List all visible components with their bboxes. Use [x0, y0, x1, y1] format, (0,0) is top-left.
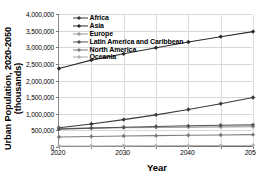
series-marker — [57, 135, 61, 139]
y-axis-tick-label: 4,000,000 — [0, 11, 54, 18]
series-marker — [251, 29, 255, 33]
legend-item-label: Oceania — [90, 53, 117, 61]
y-axis-tick-label: 3,000,000 — [0, 44, 54, 51]
series-marker — [154, 113, 158, 117]
x-axis-title: Year — [58, 162, 256, 173]
series-marker — [89, 126, 93, 130]
y-axis-tick-labels: 0500,0001,000,0001,500,0002,000,0002,500… — [0, 14, 56, 147]
y-axis-tick-label: 1,000,000 — [0, 110, 54, 117]
series-marker — [154, 133, 158, 137]
legend-marker-icon — [73, 30, 88, 38]
legend-marker-icon — [73, 38, 88, 46]
x-axis-tick-label: 2020 — [51, 149, 66, 156]
legend-item-asia[interactable]: Asia — [73, 22, 183, 30]
x-axis-tick-label: 2030 — [115, 149, 130, 156]
series-marker — [218, 34, 222, 38]
series-marker — [89, 122, 93, 126]
legend-item-north-america[interactable]: North America — [73, 46, 183, 54]
legend-item-label: Europe — [90, 30, 114, 38]
y-axis-tick-label: 1,500,000 — [0, 94, 54, 101]
series-marker — [218, 133, 222, 137]
urban-population-line-chart: Urban Population, 2020-2050 (thousands) … — [0, 0, 256, 177]
series-marker — [121, 125, 125, 129]
legend-item-latin-america-and-caribbean[interactable]: Latin America and Caribbean — [73, 38, 183, 46]
legend-marker-icon — [73, 53, 88, 61]
series-marker — [57, 66, 61, 70]
x-axis-tick-labels: 2020203020402050 — [58, 149, 252, 161]
series-north-america — [57, 132, 255, 139]
y-axis-tick-label: 2,500,000 — [0, 60, 54, 67]
series-marker — [121, 134, 125, 138]
y-axis-tick-label: 0 — [0, 144, 54, 151]
series-marker — [186, 107, 190, 111]
series-marker — [89, 134, 93, 138]
legend-marker-icon — [73, 22, 88, 30]
legend-item-label: Latin America and Caribbean — [90, 38, 184, 46]
legend-item-label: North America — [90, 46, 137, 54]
legend-item-oceania[interactable]: Oceania — [73, 53, 183, 61]
x-axis-tick-label: 2040 — [180, 149, 195, 156]
series-marker — [186, 40, 190, 44]
series-line — [59, 97, 253, 127]
x-axis-tick-label: 2050 — [245, 149, 256, 156]
series-marker — [251, 132, 255, 136]
series-marker — [251, 95, 255, 99]
chart-legend: AfricaAsiaEuropeLatin America and Caribb… — [72, 13, 185, 62]
legend-item-africa[interactable]: Africa — [73, 14, 183, 22]
legend-item-europe[interactable]: Europe — [73, 30, 183, 38]
legend-item-label: Africa — [90, 14, 109, 22]
legend-item-label: Asia — [90, 22, 104, 30]
y-axis-tick-label: 500,000 — [0, 127, 54, 134]
y-axis-tick-label: 3,500,000 — [0, 27, 54, 34]
series-marker — [186, 133, 190, 137]
y-axis-tick-label: 2,000,000 — [0, 77, 54, 84]
legend-marker-icon — [73, 46, 88, 54]
series-marker — [218, 101, 222, 105]
series-marker — [121, 117, 125, 121]
legend-marker-icon — [73, 14, 88, 22]
